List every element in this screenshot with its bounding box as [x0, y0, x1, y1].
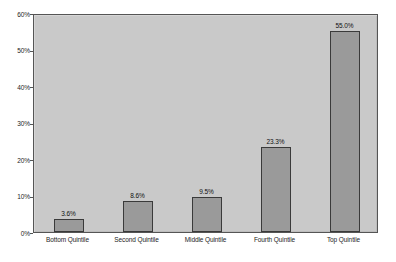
- bar-value-label: 23.3%: [249, 138, 303, 145]
- y-axis-tick: 30%: [17, 119, 33, 129]
- bar-rect[interactable]: [54, 219, 84, 232]
- bar-rect[interactable]: [330, 31, 360, 232]
- bar-chart-figure: 0%10%20%30%40%50%60% 3.6%8.6%9.5%23.3%55…: [0, 0, 396, 262]
- bar-group[interactable]: 55.0%: [330, 15, 360, 232]
- y-axis-tick: 0%: [21, 228, 33, 238]
- bar-value-label: 8.6%: [111, 192, 165, 199]
- bars-layer: 3.6%8.6%9.5%23.3%55.0%: [34, 15, 377, 232]
- bar-rect[interactable]: [192, 197, 222, 232]
- y-axis-tick: 20%: [17, 155, 33, 165]
- x-axis-category-label: Second Quintile: [102, 236, 171, 243]
- y-axis-tick-mark: [30, 233, 33, 234]
- bar-group[interactable]: 9.5%: [192, 15, 222, 232]
- bar-value-label: 55.0%: [318, 22, 372, 29]
- x-axis-category-label: Top Quintile: [309, 236, 378, 243]
- x-axis-category-label: Bottom Quintile: [33, 236, 102, 243]
- y-axis-tick: 10%: [17, 192, 33, 202]
- bar-group[interactable]: 23.3%: [261, 15, 291, 232]
- bar-value-label: 3.6%: [42, 210, 96, 217]
- y-axis-tick: 40%: [17, 82, 33, 92]
- bar-rect[interactable]: [123, 201, 153, 232]
- y-axis-tick: 60%: [17, 9, 33, 19]
- y-axis-tick: 50%: [17, 46, 33, 56]
- bar-rect[interactable]: [261, 147, 291, 232]
- bar-group[interactable]: 3.6%: [54, 15, 84, 232]
- x-axis: Bottom QuintileSecond QuintileMiddle Qui…: [33, 236, 378, 248]
- bar-value-label: 9.5%: [180, 188, 234, 195]
- y-axis: 0%10%20%30%40%50%60%: [0, 14, 33, 233]
- bar-group[interactable]: 8.6%: [123, 15, 153, 232]
- plot-inner: 3.6%8.6%9.5%23.3%55.0%: [34, 15, 377, 232]
- x-axis-category-label: Middle Quintile: [171, 236, 240, 243]
- x-axis-category-label: Fourth Quintile: [240, 236, 309, 243]
- plot-area: 3.6%8.6%9.5%23.3%55.0%: [33, 14, 378, 233]
